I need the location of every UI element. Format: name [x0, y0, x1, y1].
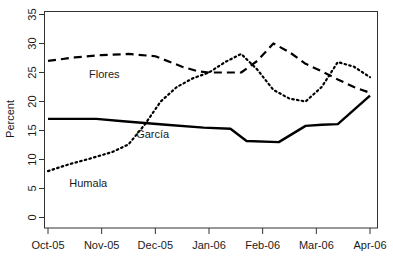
y-axis-title: Percent [4, 100, 16, 138]
series-label-flores: Flores [89, 68, 120, 80]
x-tick-label: Jan-06 [192, 239, 226, 251]
x-tick-label: Dec-05 [138, 239, 173, 251]
y-tick-label: 30 [26, 37, 38, 49]
x-tick-label: Apr-06 [353, 239, 386, 251]
y-tick-label: 35 [26, 8, 38, 20]
series-label-humala: Humala [69, 177, 108, 189]
y-tick-label: 0 [26, 214, 38, 220]
chart-container: 05101520253035 Oct-05Nov-05Dec-05Jan-06F… [0, 0, 393, 259]
line-chart: 05101520253035 Oct-05Nov-05Dec-05Jan-06F… [0, 0, 393, 259]
y-tick-label: 15 [26, 124, 38, 136]
y-tick-label: 5 [26, 185, 38, 191]
x-tick-label: Nov-05 [84, 239, 119, 251]
y-tick-label: 20 [26, 95, 38, 107]
x-tick-label: Mar-06 [299, 239, 334, 251]
x-tick-label: Oct-05 [31, 239, 64, 251]
series-label-garca: García [136, 128, 170, 140]
y-tick-label: 10 [26, 153, 38, 165]
y-tick-label: 25 [26, 66, 38, 78]
x-tick-label: Feb-06 [245, 239, 280, 251]
chart-background [0, 0, 393, 259]
